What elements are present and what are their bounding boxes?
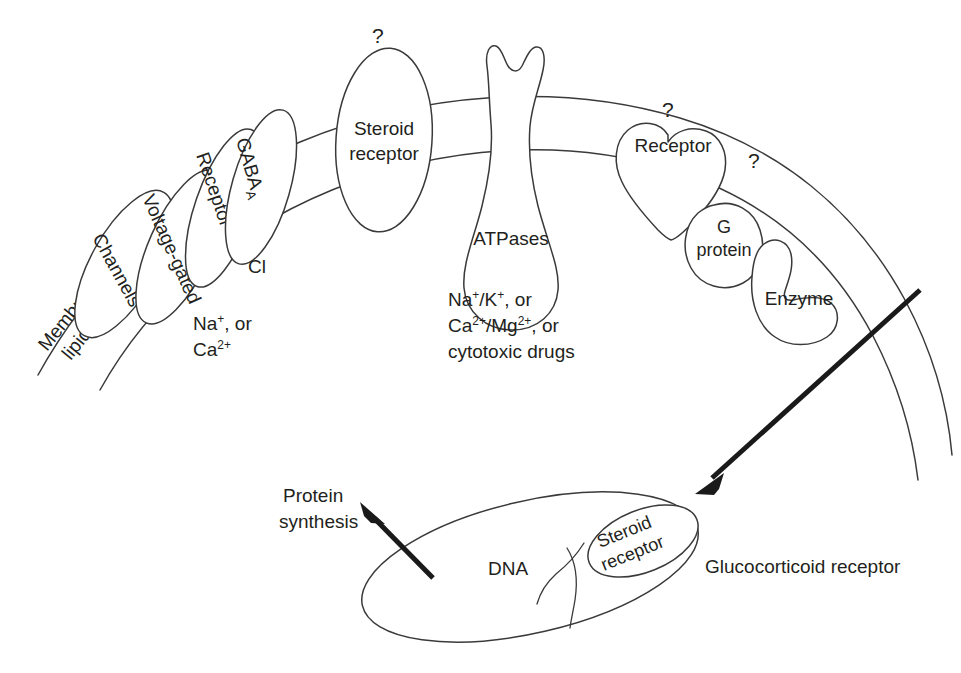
steroid-receptor-oval[interactable] [330,45,439,235]
steroid-receptor-line1: Steroid [354,118,414,139]
chloride-ion-label: Cl [248,256,266,277]
atpase-substrate-line3: cytotoxic drugs [448,341,575,362]
gpcr-receptor-question-mark: ? [662,98,674,121]
gpcr-receptor-label: Receptor [634,135,712,156]
cell-membrane-diagram: Membrane lipids Channels Voltage-gated N… [0,0,961,673]
g-protein-line2: protein [696,240,751,260]
diagram-canvas: Membrane lipids Channels Voltage-gated N… [0,0,961,673]
channel-ion-line1: Na+, or [193,312,252,334]
channel-ion-line2: Ca2+ [193,338,231,360]
protein-synthesis-line1: Protein [283,485,343,506]
g-protein-line1: G [717,217,731,237]
enzyme-question-mark: ? [748,149,760,172]
membrane-steroid-receptor[interactable]: Steroid receptor ? [330,24,439,235]
dna-label: DNA [488,558,528,579]
atpase-label: ATPases [473,228,549,249]
g-protein[interactable]: G protein [685,203,763,287]
steroid-receptor-question-mark: ? [372,24,384,47]
glucocorticoid-receptor-label: Glucocorticoid receptor [705,556,901,577]
dna-strands [537,543,584,628]
enzyme-protein[interactable]: Enzyme ? [748,149,837,345]
protein-synthesis-label: Protein synthesis [279,485,358,532]
atpase-substrate-line1: Na+/K+, or [448,288,532,310]
dna-strand-2 [537,543,584,604]
enzyme-label: Enzyme [765,288,834,309]
channel-ion-labels: Na+, or Ca2+ [193,312,252,360]
nuclear-steroid-receptor[interactable]: Steroid receptor [578,491,709,592]
protein-synthesis-arrow-head [360,502,385,524]
atpase-substrate-line2: Ca2+/Mg2+, or [448,314,559,336]
protein-synthesis-arrow [360,502,433,578]
protein-synthesis-arrow-shaft [374,518,433,578]
protein-synthesis-line2: synthesis [279,511,358,532]
steroid-receptor-line2: receptor [349,143,419,164]
translocation-arrow-head [695,473,724,495]
